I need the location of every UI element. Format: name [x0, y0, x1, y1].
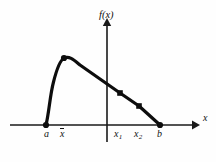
function-graph-svg	[0, 0, 216, 162]
tick-label-x1-subscript: 1	[118, 133, 122, 141]
point-xbar	[61, 55, 67, 61]
tick-label-a-text: a	[44, 128, 49, 139]
tick-label-x2-subscript: 2	[138, 133, 142, 141]
x-axis-label: x	[203, 113, 207, 123]
x-axis-label-text: x	[203, 112, 207, 123]
overbar-icon	[60, 128, 64, 129]
marked-points-group	[43, 55, 163, 128]
point-x2	[136, 103, 142, 109]
figure-container: f(x) x a x x1 x2 b	[0, 0, 216, 162]
tick-label-x2: x2	[134, 129, 142, 141]
point-x1	[117, 90, 123, 96]
tick-label-xbar-text: x	[60, 128, 64, 139]
x-axis-arrow-icon	[192, 121, 200, 130]
xbar-glyph: x	[60, 129, 64, 139]
x-axis-group	[10, 121, 200, 130]
tick-label-a: a	[44, 129, 49, 139]
tick-label-b: b	[157, 129, 162, 139]
tick-label-x1: x1	[114, 129, 122, 141]
function-curve	[46, 57, 160, 125]
curve-group	[46, 57, 160, 125]
tick-label-b-text: b	[157, 128, 162, 139]
y-axis-label-text: f(x)	[99, 9, 114, 20]
y-axis-label: f(x)	[99, 10, 114, 21]
tick-label-xbar: x	[60, 129, 64, 139]
